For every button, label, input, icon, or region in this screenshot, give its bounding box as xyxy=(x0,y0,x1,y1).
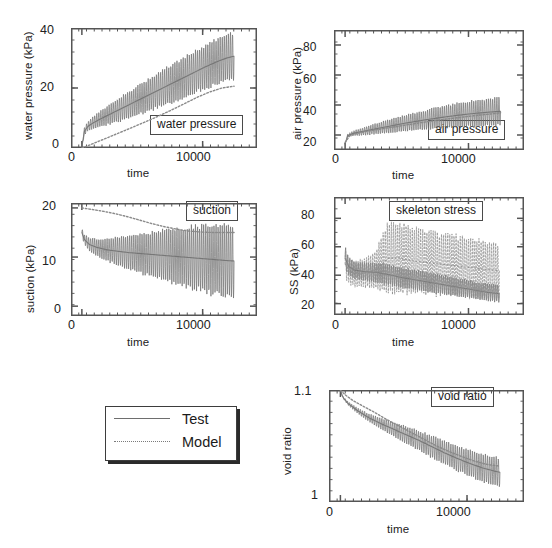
y-tick-label: 40 xyxy=(303,104,316,118)
plot-area-water-pressure xyxy=(71,28,257,148)
x-tick-label: 0 xyxy=(68,150,75,164)
y-tick-label: 60 xyxy=(303,72,316,86)
plot-area-air-pressure xyxy=(334,30,524,150)
plot-area-skeleton-stress xyxy=(334,197,524,315)
y-tick-label: 20 xyxy=(40,80,54,94)
legend-line-solid-icon xyxy=(114,414,170,424)
y-axis-title: void ratio xyxy=(281,427,293,475)
y-tick-label: 20 xyxy=(303,135,316,149)
y-tick-label: 20 xyxy=(42,199,56,213)
x-axis-title: time xyxy=(387,523,409,535)
y-tick-label: 1.1 xyxy=(294,384,311,398)
legend-line-dotted-icon xyxy=(114,437,170,447)
x-axis-title: time xyxy=(127,336,149,348)
y-axis-title: SS (kPa) xyxy=(288,248,300,295)
panel-suction: suction (kPa) 20 10 0 0 10000 time sucti… xyxy=(0,185,276,370)
y-tick-label: 60 xyxy=(301,238,314,252)
series-legend: Test Model xyxy=(105,406,237,461)
y-tick-label: 40 xyxy=(301,268,314,282)
x-axis-title: time xyxy=(392,336,414,348)
y-axis-title: suction (kPa) xyxy=(24,245,36,313)
y-tick-label: 1 xyxy=(311,488,318,502)
legend-row-test: Test xyxy=(106,407,236,430)
x-tick-label: 0 xyxy=(332,318,339,332)
y-tick-label: 80 xyxy=(303,40,316,54)
y-axis-title: water pressure (kPa) xyxy=(22,31,34,140)
legend-label-test: Test xyxy=(182,411,209,427)
x-tick-label: 0 xyxy=(68,318,75,332)
y-tick-label: 10 xyxy=(42,254,56,268)
y-tick-label: 20 xyxy=(301,298,314,312)
x-tick-label: 0 xyxy=(326,505,333,519)
panel-water-pressure: water pressure (kPa) 40 20 0 0 10000 tim… xyxy=(0,0,276,185)
x-axis-title: time xyxy=(392,169,414,181)
x-tick-label: 0 xyxy=(332,152,339,166)
x-tick-label: 10000 xyxy=(176,318,211,332)
y-tick-label: 0 xyxy=(54,302,61,316)
x-tick-label: 10000 xyxy=(441,318,476,332)
y-tick-label: 40 xyxy=(40,23,54,37)
y-axis-title: air pressure (kPa) xyxy=(291,47,303,140)
x-axis-title: time xyxy=(127,167,149,179)
legend-row-model: Model xyxy=(106,430,236,453)
figure-root: water pressure (kPa) 40 20 0 0 10000 tim… xyxy=(0,0,552,548)
panel-skeleton-stress: SS (kPa) 80 60 40 20 0 10000 time skelet… xyxy=(276,185,552,370)
legend-label-model: Model xyxy=(182,434,222,450)
x-tick-label: 10000 xyxy=(441,152,476,166)
x-tick-label: 10000 xyxy=(176,150,211,164)
panel-air-pressure: air pressure (kPa) 80 60 40 20 0 10000 t… xyxy=(276,0,552,185)
y-tick-label: 80 xyxy=(301,208,314,222)
y-tick-label: 0 xyxy=(52,137,59,151)
x-tick-label: 10000 xyxy=(436,505,471,519)
plot-area-void-ratio xyxy=(329,390,524,502)
plot-area-suction xyxy=(71,203,257,316)
panel-void-ratio: void ratio 1.1 1 0 10000 time void ratio xyxy=(276,370,552,548)
